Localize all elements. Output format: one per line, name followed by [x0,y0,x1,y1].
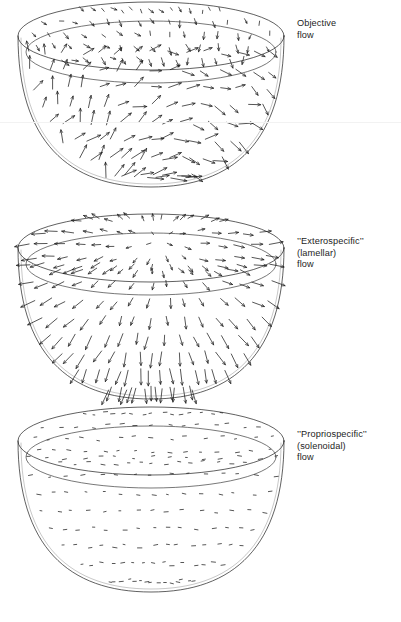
label-exterospecific-line-1: (lamellar) [297,248,364,260]
label-objective-line-1: flow [297,30,336,42]
label-propriospecific-line-1: (solenoidal) [297,441,367,453]
label-exterospecific-line-2: flow [297,259,364,271]
figure-optic-flow-hemispheres: Objective flow ’’Exterospecific’’ (lamel… [0,0,401,622]
label-objective: Objective flow [297,18,336,41]
label-propriospecific-line-0: ’’Propriospecific’’ [297,429,367,441]
panel-exterospecific: ’’Exterospecific’’ (lamellar) flow [0,212,401,407]
panel-propriospecific: ’’Propriospecific’’ (solenoidal) flow [0,405,401,622]
label-objective-line-0: Objective [297,18,336,30]
panel-objective: Objective flow [0,0,401,212]
bowl-objective [0,0,401,212]
label-exterospecific: ’’Exterospecific’’ (lamellar) flow [297,236,364,271]
label-propriospecific-line-2: flow [297,452,367,464]
label-exterospecific-line-0: ’’Exterospecific’’ [297,236,364,248]
label-propriospecific: ’’Propriospecific’’ (solenoidal) flow [297,429,367,464]
